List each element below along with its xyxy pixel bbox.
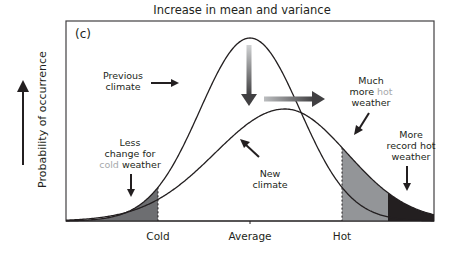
more-hot-label-2: more hot [349, 86, 392, 97]
hot-shaded-region [342, 148, 388, 221]
new-climate-label-2: climate [252, 179, 287, 190]
record-hot-label-2: record hot [387, 140, 436, 151]
x-tick-cold: Cold [146, 230, 169, 242]
more-hot-label-2-prefix: more [349, 86, 377, 97]
less-cold-label-3: cold weather [99, 159, 161, 170]
less-cold-label-3-rest: weather [119, 159, 161, 170]
arrow-right-icon [151, 79, 179, 87]
x-tick-hot: Hot [333, 230, 351, 242]
mean-shift-right-arrow-icon [264, 91, 325, 107]
y-axis-arrow-icon [17, 80, 29, 165]
figure: Increase in mean and variance Probabilit… [0, 0, 457, 255]
arrow-down-cold-icon [127, 174, 135, 197]
mean-shift-down-arrow-icon [241, 45, 257, 106]
more-hot-label-3: weather [352, 97, 391, 108]
previous-climate-label-2: climate [105, 81, 140, 92]
new-climate-label-1: New [260, 168, 281, 179]
record-hot-label-3: weather [392, 151, 431, 162]
record-hot-label-1: More [399, 129, 423, 140]
less-cold-label-2: change for [104, 148, 155, 159]
previous-climate-label-1: Previous [103, 70, 143, 81]
cold-highlight-word: cold [99, 159, 119, 170]
hot-highlight-word: hot [377, 86, 393, 97]
arrow-up-left-icon [240, 139, 259, 157]
figure-title: Increase in mean and variance [153, 3, 331, 17]
less-cold-label-1: Less [120, 137, 141, 148]
x-tick-average: Average [228, 230, 271, 242]
arrow-down-left-hot-icon [354, 113, 369, 135]
more-hot-label-1: Much [358, 75, 383, 86]
arrow-down-record-icon [403, 166, 411, 191]
panel-label: (c) [75, 27, 91, 41]
y-axis-label: Probability of occurrence [36, 51, 49, 188]
